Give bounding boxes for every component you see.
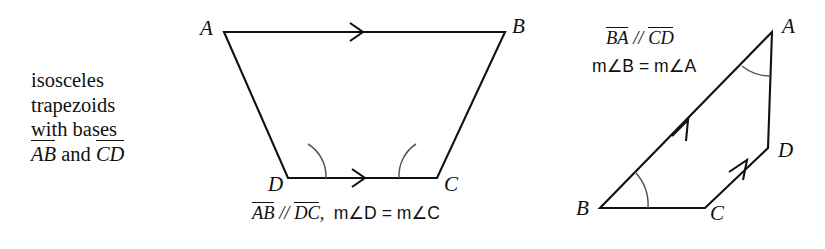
left-figure-caption: AB // DC, m∠D = m∠C xyxy=(252,203,440,224)
caption-left-segment-2: DC xyxy=(294,203,320,224)
left-vertex-label-d: D xyxy=(268,174,283,195)
description-line-2: trapezoids xyxy=(31,93,191,118)
description-line-3: with bases xyxy=(31,117,191,142)
right-vertex-label-b: B xyxy=(576,198,589,219)
angle-arc-a-icon xyxy=(742,66,770,76)
description-line-1: isosceles xyxy=(31,68,191,93)
caption-left-angle-measure: m∠D = m∠C xyxy=(334,203,440,223)
angle-arc-b-icon xyxy=(635,172,648,208)
right-trapezoid-figure xyxy=(590,12,790,227)
left-trapezoid-outline xyxy=(224,32,505,178)
figure-canvas: isosceles trapezoids with bases AB and C… xyxy=(0,0,825,249)
caption-left-segment-1: AB xyxy=(252,203,275,224)
left-trapezoid-figure xyxy=(200,10,530,200)
figure-description: isosceles trapezoids with bases AB and C… xyxy=(31,68,191,166)
right-trapezoid-outline xyxy=(600,32,772,208)
right-vertex-label-a: A xyxy=(782,16,795,37)
left-vertex-label-a: A xyxy=(200,18,213,39)
segment-cd-label: CD xyxy=(96,142,124,167)
left-vertex-label-b: B xyxy=(512,16,525,37)
angle-arc-d-icon xyxy=(308,144,326,178)
caption-left-gap xyxy=(324,203,333,223)
right-vertex-label-d: D xyxy=(778,140,793,161)
right-vertex-label-c: C xyxy=(710,203,724,224)
segment-ab-label: AB xyxy=(31,142,56,167)
left-vertex-label-c: C xyxy=(444,174,458,195)
description-line-4: AB and CD xyxy=(31,142,191,167)
caption-left-parallel-symbol: // xyxy=(279,203,289,223)
angle-arc-c-icon xyxy=(399,144,416,178)
description-and: and xyxy=(61,143,91,165)
